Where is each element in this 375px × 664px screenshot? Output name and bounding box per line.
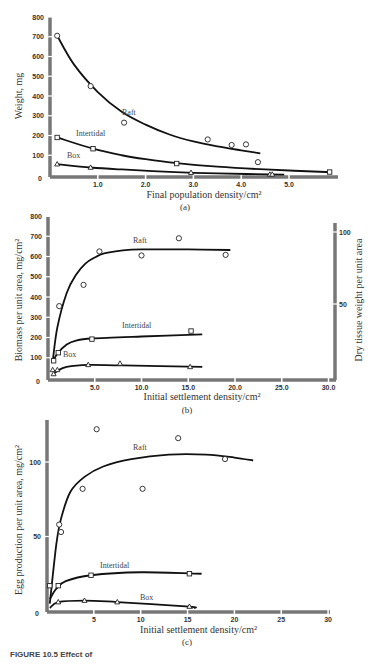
data-point-square	[55, 135, 59, 139]
data-point-circle	[229, 142, 234, 147]
series-label: Intertidal	[76, 129, 106, 138]
data-point-square	[48, 583, 52, 587]
y-tick-label: 300	[32, 112, 44, 119]
x-tick-label: 5.0	[284, 181, 294, 188]
x-tick-label: 2.0	[141, 181, 151, 188]
series-box: Box	[50, 350, 202, 376]
panel-label: (c)	[182, 637, 192, 647]
chart-c: 50100051015202530Initial settlement dens…	[13, 420, 332, 647]
data-point-triangle	[82, 598, 87, 602]
y-tick-label: 700	[32, 33, 44, 40]
chart-b: 10020030040050060070080005.010.015.020.0…	[13, 213, 364, 416]
x-tick-label: 20.0	[228, 384, 242, 391]
series-label: Box	[140, 593, 153, 602]
data-point-circle	[58, 529, 63, 534]
y-origin-label: 0	[36, 378, 40, 385]
data-point-circle	[176, 436, 181, 441]
data-point-triangle	[50, 367, 55, 371]
data-point-square	[89, 573, 93, 577]
right-y-tick-label: 100	[339, 229, 351, 236]
x-tick-label: 10	[137, 616, 145, 623]
y-tick-label: 100	[29, 459, 41, 466]
x-tick-label: 5.0	[90, 384, 100, 391]
data-point-triangle	[55, 162, 60, 166]
data-point-circle	[97, 249, 102, 254]
y-axis-title: Weight, mg	[13, 73, 24, 119]
y-tick-label: 300	[30, 314, 42, 321]
x-tick-label: 1.0	[93, 181, 103, 188]
y-tick-label: 200	[32, 132, 44, 139]
data-point-square	[51, 359, 55, 363]
y-tick-label: 100	[32, 152, 44, 159]
data-point-triangle	[188, 364, 193, 368]
y-tick-label: 600	[32, 53, 44, 60]
x-axis-title: Initial settlement density/cm²	[144, 391, 261, 402]
series-label: Box	[67, 151, 80, 160]
data-point-circle	[205, 137, 210, 142]
y-axis-title: Egg production per unit area, mg/cm²	[13, 445, 24, 595]
y-tick-label: 50	[33, 533, 41, 540]
figure-caption: FIGURE 10.5 Effect of	[10, 650, 92, 659]
data-point-square	[90, 337, 94, 341]
series-raft: Raft	[53, 236, 231, 362]
data-point-triangle	[88, 165, 93, 169]
right-y-axis-title: Dry tissue weight per unit area	[353, 238, 364, 362]
x-tick-label: 20	[231, 616, 239, 623]
data-point-circle	[94, 427, 99, 432]
data-point-circle	[88, 84, 93, 89]
series-intertidal: Intertidal	[48, 561, 202, 599]
fit-curve	[53, 365, 203, 375]
y-tick-label: 700	[30, 233, 42, 240]
y-tick-label: 500	[32, 73, 44, 80]
series-raft: Raft	[55, 33, 261, 165]
data-point-square	[189, 329, 193, 333]
data-point-circle	[80, 486, 85, 491]
y-origin-label: 0	[38, 175, 42, 182]
y-axis-title: Biomass per unit area, mg/cm²	[13, 239, 24, 362]
x-tick-label: 15	[184, 616, 192, 623]
y-origin-label: 0	[35, 610, 39, 617]
data-point-triangle	[86, 362, 91, 366]
fit-curve	[57, 137, 332, 172]
data-point-square	[174, 161, 178, 165]
y-tick-label: 600	[30, 253, 42, 260]
data-point-circle	[57, 304, 62, 309]
x-tick-label: 5	[92, 616, 96, 623]
fit-curve	[50, 572, 202, 599]
x-tick-label: 10.0	[135, 384, 149, 391]
figure: 10020030040050060070080001.02.03.04.05.0…	[0, 0, 375, 664]
x-tick-label: 15.0	[181, 384, 195, 391]
data-point-triangle	[115, 599, 120, 603]
y-tick-label: 200	[30, 334, 42, 341]
data-point-triangle	[187, 604, 192, 608]
data-point-square	[327, 170, 331, 174]
data-point-square	[56, 350, 60, 354]
y-tick-label: 500	[30, 273, 42, 280]
data-point-circle	[140, 486, 145, 491]
x-tick-label: 4.0	[236, 181, 246, 188]
fit-curve	[50, 601, 196, 608]
data-point-circle	[222, 456, 227, 461]
x-axis-title: Initial settlement density/cm²	[140, 624, 257, 635]
chart-a: 10020030040050060070080001.02.03.04.05.0…	[13, 14, 338, 213]
y-tick-label: 800	[30, 213, 42, 220]
series-label: Raft	[133, 236, 148, 245]
x-tick-label: 25	[277, 616, 285, 623]
series-label: Box	[63, 350, 76, 359]
panel-label: (b)	[182, 405, 193, 415]
y-tick-label: 400	[32, 93, 44, 100]
data-point-circle	[223, 252, 228, 257]
data-point-circle	[55, 33, 60, 38]
fit-curve	[53, 249, 231, 361]
y-tick-label: 400	[30, 294, 42, 301]
data-point-triangle	[117, 361, 122, 365]
x-tick-label: 30	[324, 616, 332, 623]
data-point-circle	[57, 522, 62, 527]
y-tick-label: 100	[30, 354, 42, 361]
data-point-triangle	[55, 367, 60, 371]
data-point-square	[91, 147, 95, 151]
data-point-circle	[139, 253, 144, 258]
data-point-circle	[243, 142, 248, 147]
data-point-triangle	[56, 599, 61, 603]
data-point-circle	[255, 160, 260, 165]
